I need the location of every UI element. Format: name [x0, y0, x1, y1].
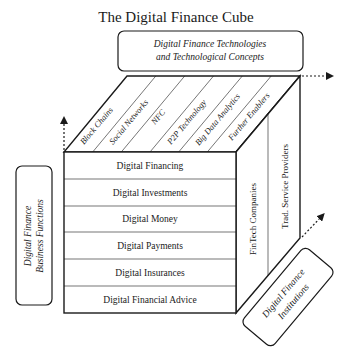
cube-front-face: Digital Financing Digital Investments Di…: [64, 152, 236, 313]
business-functions-axis-box: Digital Finance Business Functions: [16, 166, 52, 305]
technologies-axis-label-line2: and Technological Concepts: [156, 52, 264, 62]
technologies-axis-label-line1: Digital Finance Technologies: [153, 39, 267, 49]
business-functions-axis-label-line2: Business Functions: [35, 199, 45, 273]
diagram-title: The Digital Finance Cube: [98, 9, 254, 25]
technologies-axis-box: Digital Finance Technologies and Technol…: [118, 31, 303, 71]
front-face-row: Digital Insurances: [115, 268, 185, 278]
front-face-row: Digital Money: [122, 214, 178, 224]
front-face-row: Digital Payments: [117, 241, 183, 251]
side-face-column: FinTech Companies: [248, 182, 258, 255]
institutions-axis-arrow-icon: [302, 216, 322, 237]
front-face-row: Digital Financial Advice: [103, 295, 196, 305]
front-face-row: Digital Investments: [113, 188, 188, 198]
business-functions-axis-label-line1: Digital Finance: [23, 206, 33, 267]
front-face-row: Digital Financing: [117, 161, 184, 171]
digital-finance-cube-diagram: The Digital Finance Cube Digital Finance…: [0, 0, 352, 363]
side-face-column: Trad. Service Providers: [280, 144, 290, 229]
